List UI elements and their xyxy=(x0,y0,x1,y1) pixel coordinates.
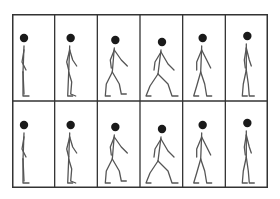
leg-line xyxy=(201,159,212,183)
leg-line xyxy=(69,72,76,96)
gait-sequence-figure xyxy=(12,14,268,188)
leg-line xyxy=(194,159,201,183)
arm-line xyxy=(246,48,251,66)
head-icon xyxy=(198,121,206,129)
leg-line xyxy=(158,161,178,183)
gait-frame-grid xyxy=(12,14,268,188)
leg-line xyxy=(246,157,254,183)
head-icon xyxy=(111,123,119,131)
arm-line xyxy=(161,52,174,70)
leg-line xyxy=(146,161,158,183)
head-icon xyxy=(66,121,74,129)
leg-line xyxy=(246,70,254,96)
head-icon xyxy=(243,32,251,40)
head-icon xyxy=(243,119,251,127)
leg-line xyxy=(194,72,201,96)
arm-line xyxy=(161,139,174,157)
leg-line xyxy=(158,74,178,96)
leg-line xyxy=(105,72,112,96)
arm-line xyxy=(202,137,211,155)
leg-line xyxy=(112,159,126,181)
leg-line xyxy=(69,159,76,183)
head-icon xyxy=(158,125,166,133)
arm-line xyxy=(114,137,127,153)
leg-line xyxy=(201,72,212,96)
head-icon xyxy=(20,34,28,42)
head-icon xyxy=(66,34,74,42)
head-icon xyxy=(111,36,119,44)
head-icon xyxy=(20,121,28,129)
arm-line xyxy=(202,50,211,68)
head-icon xyxy=(158,38,166,46)
head-icon xyxy=(198,34,206,42)
arm-line xyxy=(70,137,77,153)
arm-line xyxy=(114,50,127,66)
leg-line xyxy=(112,72,126,94)
arm-line xyxy=(246,135,251,153)
leg-line xyxy=(105,159,112,183)
leg-line xyxy=(146,74,158,96)
arm-line xyxy=(70,50,77,66)
